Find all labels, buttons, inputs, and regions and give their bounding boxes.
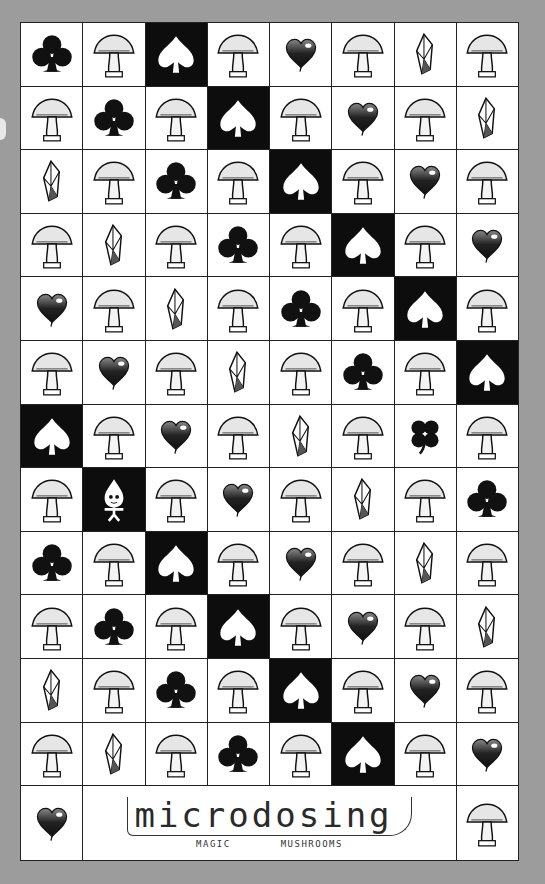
mushroom-icon (461, 409, 513, 463)
mushroom-icon (88, 536, 140, 590)
spade-icon (150, 27, 202, 81)
mushroom-icon (399, 727, 451, 781)
mushroom-icon (275, 91, 327, 145)
mushroom-cell (83, 405, 145, 469)
mushroom-cell (457, 150, 519, 214)
crystal-cell (21, 150, 83, 214)
mushroom-cell (21, 595, 83, 659)
mushroom-icon (212, 154, 264, 208)
spade-cell (146, 532, 208, 596)
mushroom-cell (270, 87, 332, 151)
heart-cell (21, 277, 83, 341)
mushroom-icon (399, 218, 451, 272)
mushroom-cell (83, 150, 145, 214)
mushroom-icon (212, 27, 264, 81)
crystal-cell (83, 723, 145, 787)
heart-icon (337, 91, 389, 145)
crystal-icon (461, 91, 513, 145)
club-icon (26, 27, 78, 81)
mushroom-cell (332, 277, 394, 341)
mushroom-cell (270, 468, 332, 532)
mushroom-icon (461, 663, 513, 717)
crystal-icon (337, 472, 389, 526)
mushroom-icon (461, 796, 513, 850)
mushroom-icon (212, 536, 264, 590)
crystal-cell (332, 468, 394, 532)
mushroom-icon (275, 727, 327, 781)
mushroom-cell (21, 341, 83, 405)
mushroom-cell (395, 468, 457, 532)
mushroom-icon (399, 91, 451, 145)
mushroom-icon (275, 345, 327, 399)
mushroom-cell (332, 150, 394, 214)
mushroom-cell (395, 87, 457, 151)
crystal-cell (208, 341, 270, 405)
club-cell (146, 659, 208, 723)
poster-sheet: microdosing MAGIC MUSHROOMS (20, 22, 518, 860)
spade-icon (212, 600, 264, 654)
mushroom-cell (208, 532, 270, 596)
heart-cell (270, 532, 332, 596)
mushroom-icon (150, 727, 202, 781)
subtitle: MAGIC MUSHROOMS (196, 839, 343, 849)
crystal-icon (399, 536, 451, 590)
mushroom-icon (337, 282, 389, 336)
spade-icon (275, 663, 327, 717)
club-cell (270, 277, 332, 341)
mushroom-cell (457, 659, 519, 723)
spade-cell (208, 595, 270, 659)
crystal-cell (146, 277, 208, 341)
mushroom-cell (395, 214, 457, 278)
crystal-icon (88, 727, 140, 781)
mushroom-icon (150, 600, 202, 654)
spade-cell (270, 659, 332, 723)
mushroom-cell (332, 405, 394, 469)
mushroom-icon (461, 282, 513, 336)
crystal-cell (457, 595, 519, 659)
spade-cell (146, 23, 208, 87)
crystal-icon (88, 218, 140, 272)
mushroom-cell (270, 214, 332, 278)
mushroom-cell (395, 595, 457, 659)
spade-icon (212, 91, 264, 145)
mushroom-cell (332, 659, 394, 723)
club-icon (88, 91, 140, 145)
spade-cell (208, 87, 270, 151)
heart-cell (208, 468, 270, 532)
spade-icon (150, 536, 202, 590)
mushroom-cell (146, 468, 208, 532)
club-icon (150, 154, 202, 208)
mushroom-cell (21, 723, 83, 787)
mushroom-cell (457, 405, 519, 469)
mushroom-cell (146, 87, 208, 151)
club-icon (212, 218, 264, 272)
mushroom-icon (88, 282, 140, 336)
crystal-icon (150, 282, 202, 336)
club-icon (150, 663, 202, 717)
mushroom-icon (150, 472, 202, 526)
mushroom-icon (337, 409, 389, 463)
mushroom-icon (212, 409, 264, 463)
spade-icon (26, 409, 78, 463)
mushroom-icon (212, 282, 264, 336)
mushroom-icon (88, 154, 140, 208)
mushroom-icon (88, 663, 140, 717)
logo-text: microdosing (127, 797, 411, 836)
spade-icon (399, 282, 451, 336)
mushroom-icon (26, 600, 78, 654)
spade-icon (275, 154, 327, 208)
crystal-cell (395, 532, 457, 596)
mushroom-icon (275, 472, 327, 526)
mushroom-icon (337, 154, 389, 208)
mushroom-cell (21, 468, 83, 532)
heart-cell (146, 405, 208, 469)
crystal-cell (83, 214, 145, 278)
mushroom-icon (150, 91, 202, 145)
crystal-cell (395, 23, 457, 87)
heart-icon (212, 472, 264, 526)
heart-icon (337, 600, 389, 654)
heart-cell (21, 786, 83, 861)
mushroom-cell (208, 150, 270, 214)
club-cell (208, 214, 270, 278)
mushroom-cell (457, 277, 519, 341)
